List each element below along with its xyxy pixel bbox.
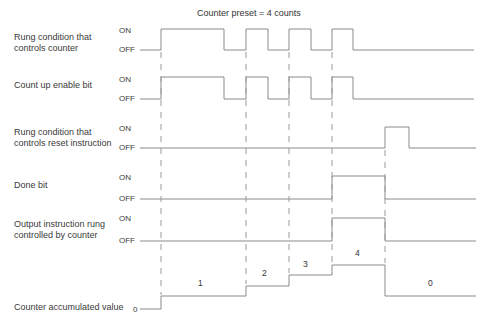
- waveform-accumulated-value: [140, 265, 476, 309]
- waveform-done-bit: [140, 176, 476, 199]
- waveform-reset-rung: [140, 127, 476, 148]
- counter-value-3: 3: [303, 259, 308, 269]
- counter-value-1: 1: [198, 278, 203, 288]
- waveform-rung-counter: [140, 29, 474, 50]
- count-markers: [161, 52, 385, 295]
- counter-value-0: 0: [428, 278, 433, 288]
- counter-value-4: 4: [355, 248, 360, 258]
- waveform-output-rung: [140, 218, 476, 241]
- counter-value-2: 2: [262, 268, 267, 278]
- waveform-count-up-enable: [140, 77, 474, 99]
- timing-waveforms: [0, 0, 484, 322]
